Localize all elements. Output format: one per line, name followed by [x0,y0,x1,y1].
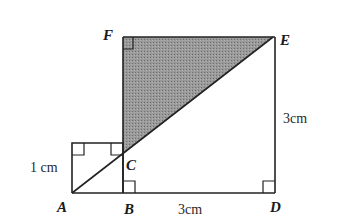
measure-small-side: 1 cm [30,160,58,175]
right-angle-marker-b [123,181,135,193]
label-a: A [56,199,67,215]
small-square [72,143,123,193]
right-angle-marker-small-topright [111,143,123,155]
measure-right: 3cm [283,111,307,126]
label-f: F [102,27,113,43]
right-angle-marker-d [263,181,275,193]
measure-bottom: 3cm [178,202,202,217]
label-b: B [123,201,134,217]
label-d: D [269,199,281,215]
label-c: C [126,157,137,173]
right-angle-marker-small-topleft [72,143,84,155]
geometry-diagram: F E C A B D 1 cm 3cm 3cm [0,0,337,220]
label-e: E [279,32,290,48]
